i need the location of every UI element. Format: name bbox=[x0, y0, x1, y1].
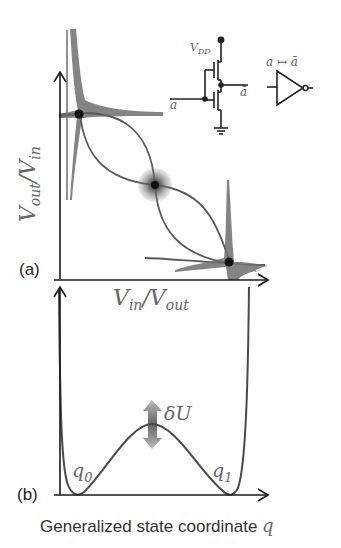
y-label-v: V bbox=[15, 206, 40, 222]
vdd-v: V bbox=[190, 41, 198, 54]
mapping-label: a ↦ ā bbox=[266, 55, 298, 69]
panel-b-tag: (b) bbox=[17, 485, 38, 505]
q0-sub: 0 bbox=[84, 470, 92, 485]
vdd-sub: DD bbox=[198, 47, 211, 56]
x-axis-label-a: Vin/Vout bbox=[113, 285, 189, 313]
x-label-slash: /V bbox=[142, 285, 165, 310]
panel-a bbox=[54, 29, 268, 286]
stable-fixed-point-high bbox=[75, 110, 84, 119]
q1-q: q bbox=[212, 459, 224, 481]
caption-text: Generalized state coordinate bbox=[40, 517, 257, 536]
x-label-v: V bbox=[113, 285, 129, 310]
x-axis-caption-b: Generalized state coordinate q bbox=[40, 515, 274, 537]
vdd-label: VDD bbox=[190, 41, 211, 56]
q0-q: q bbox=[72, 459, 84, 481]
unstable-fixed-point bbox=[151, 181, 159, 189]
barrier-label: δU bbox=[164, 402, 191, 424]
inverter-symbol bbox=[267, 71, 313, 105]
x-label-sub-in: in bbox=[129, 297, 143, 313]
y-axis-label-a: Vout/Vin bbox=[15, 129, 43, 239]
q1-sub: 1 bbox=[224, 470, 232, 485]
well-right-label: q1 bbox=[212, 459, 232, 485]
input-a-label: a bbox=[170, 98, 177, 112]
transfer-curve-1 bbox=[80, 114, 265, 265]
y-label-sub-out: out bbox=[27, 183, 43, 206]
y-label-slash: /V bbox=[15, 160, 40, 183]
caption-var-q: q bbox=[262, 515, 274, 536]
y-label-sub-in: in bbox=[27, 146, 43, 160]
well-left-label: q0 bbox=[72, 459, 92, 485]
stable-fixed-point-low bbox=[225, 258, 234, 267]
output-abar-label: ā bbox=[240, 85, 247, 99]
figure-canvas bbox=[0, 0, 341, 548]
x-label-sub-out: out bbox=[166, 297, 189, 313]
panel-a-tag: (a) bbox=[19, 260, 40, 280]
